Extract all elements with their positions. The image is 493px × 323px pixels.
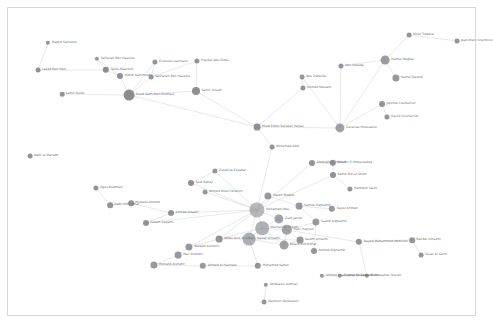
graph-node-label: Nabil al-Marabh [34,154,59,157]
graph-node[interactable] [311,248,317,254]
graph-node-label: Essoussi Laaroussi [159,60,188,63]
graph-node-label: Salem Alhazmi [305,238,328,241]
graph-node[interactable] [168,210,174,216]
graph-node-label: Bandar Alhazmi [416,238,441,241]
graph-node-label: Mohamed Abdi [276,145,299,148]
graph-node-label: Imad Eddin Barakat Yarkas [262,125,304,128]
graph-node[interactable] [455,39,460,44]
graph-node[interactable] [270,145,275,150]
graph-node[interactable] [188,180,194,186]
graph-node-label: Said Bahaji [196,181,213,184]
graph-edge [359,242,367,276]
graph-node[interactable] [407,33,412,38]
graph-node-label: Mounir El Motassadeq [338,161,372,164]
graph-edge [129,95,257,127]
graph-node-label: Satam Suqami [151,221,174,224]
graph-node-label: Mustafa Ahmed [135,201,160,204]
graph-node[interactable] [117,73,123,79]
graph-node-label: Hani Hanjour [294,228,314,231]
graph-node[interactable] [28,154,33,159]
graph-edge [38,43,48,70]
graph-node[interactable] [409,237,415,243]
graph-node[interactable] [128,200,134,206]
graph-node-label: Faisal Al Salmi [425,253,447,256]
graph-node[interactable] [419,253,424,258]
graph-node-label: Abdelaziz Alomari [270,283,298,286]
graph-node-label: Mamoun Darkazanli [268,300,299,303]
graph-node[interactable] [143,220,149,226]
graph-node-label: Rayed Mohammed Abdullah [364,240,408,243]
graph-node-label: Seifallah Ben Hassine [101,57,135,60]
graph-node-label: Hamza Alghamdi [304,204,331,207]
graph-node-label: Abdul Aziz Al-Omari [224,237,255,240]
graph-node-label: Ramzi Bin al-Shibh [338,173,367,176]
graph-node-label: Agus Budiman [100,186,123,189]
graph-node-label: Waleed Alshehri [194,245,219,248]
graph-node-label: Nizar Trabelsi [413,33,434,36]
graph-node[interactable] [300,75,305,80]
graph-node[interactable] [192,87,200,95]
graph-node[interactable] [124,90,135,101]
graph-node-label: Djamal Beghal [391,58,414,61]
graph-node-label: Majed Moqed [273,194,294,197]
graph-node[interactable] [254,124,261,131]
graph-node-label: Ahmed Alnami [176,211,199,214]
graph-node-label: Zacarias Moussaoui [346,126,377,129]
graph-node-label: Ahmed Khalil Ibrahim Samir Al-Ani [326,274,380,277]
graph-node[interactable] [381,56,390,65]
graph-node-label: Khalid Almihdhar [290,243,317,246]
graph-node-label: David Courtaillier [391,115,418,118]
graph-node-label: Kamel Daoudi [401,76,423,79]
graph-node-label: Tarek Maaroufi [111,68,134,71]
graph-node[interactable] [203,190,208,195]
graph-edge [340,66,341,128]
graph-node[interactable] [255,221,269,235]
graph-node-label: Ahmed Alghamdi [319,249,346,252]
graph-edge [340,104,382,128]
graph-node[interactable] [280,241,289,250]
graph-node[interactable] [36,68,41,73]
graph-edge [196,91,257,127]
graph-node-label: Ahmed Al Haznawi [208,264,237,267]
graph-node-label: Abu Qatada [345,64,364,67]
graph-node-label: Mohamed Kamel [263,264,289,267]
graph-node[interactable] [175,252,182,259]
graph-node[interactable] [216,236,223,243]
graph-node[interactable] [107,202,113,208]
graph-node[interactable] [309,160,315,166]
graph-node-label: Nawaf Alhazmi [257,237,280,240]
graph-node-label: Abu Zubeida [306,75,326,78]
graph-node-label: Sadfallah Ben Hassine [155,75,190,78]
graph-node-label: Samir Yousef [202,89,222,92]
graph-node-label: Mohand Alshehri [159,263,185,266]
graph-node[interactable] [296,203,303,210]
graph-node[interactable] [262,300,267,305]
graph-node-label: Mamduh Salim [354,187,377,190]
graph-node-label: Lased Ben Heni [42,68,66,71]
graph-node[interactable] [297,237,304,244]
graph-node[interactable] [379,101,385,107]
graph-node[interactable] [60,92,65,97]
graph-node-label: Essid Sami Ben Khemais [136,93,174,96]
graph-node-label: Madjid Sahoune [52,41,77,44]
graph-node[interactable] [149,75,154,80]
graph-node-label: Wail Alshehri [183,253,203,256]
graph-node-label: Mehdi Kammoun [125,74,151,77]
graph-node-label: Jerome Courtaillier [387,102,416,105]
graph-node-label: Ziad Jarrah [285,217,302,220]
graph-node[interactable] [330,172,336,178]
graph-node-label: Zakariya Essabar [219,169,246,172]
graph-edge [257,88,303,127]
graph-node-label: Fayez Ahmed [337,207,358,210]
graph-node-label: Ahmed Ressam [307,86,331,89]
graph-node-label: Jean-Marc Grandvisir [461,39,493,42]
graph-edge [340,60,385,128]
graph-node-label: Samir Kishk [66,92,84,95]
graph-node-label: Ahmed Khalil Ibrahim [209,190,243,193]
graph-node-label: Saeed Alghamdi [321,220,347,223]
graph-node-label: Haydar Abu Doha [201,59,229,62]
graph-node-label: Mohamed Atta [266,208,289,211]
graph-edge [191,183,257,210]
